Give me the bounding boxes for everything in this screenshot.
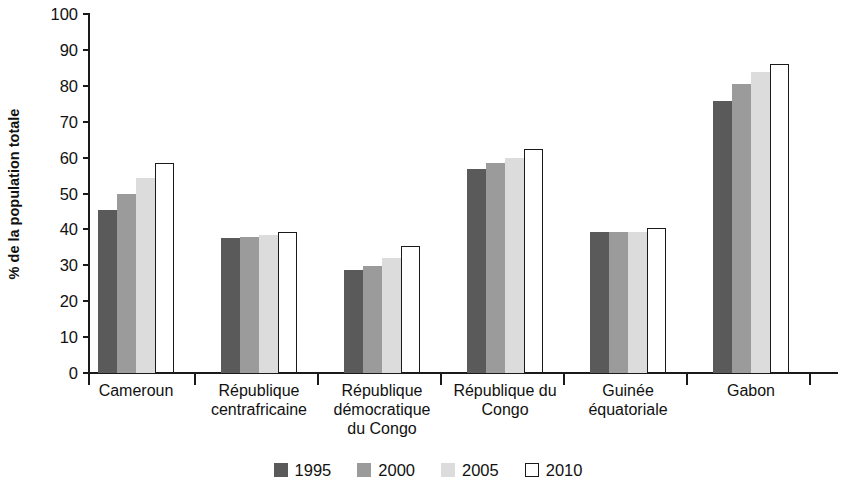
- y-axis-tick-label: 60: [60, 150, 78, 167]
- x-axis-group-separator: [809, 373, 811, 385]
- bar-group: [344, 14, 420, 373]
- legend-swatch-2010: [525, 463, 539, 477]
- legend-item-1995: 1995: [274, 462, 332, 479]
- bar-2010: [770, 64, 789, 373]
- bar-1995: [467, 169, 486, 373]
- bar-2010: [524, 149, 543, 373]
- x-axis-group-separator: [317, 373, 319, 385]
- bar-1995: [590, 232, 609, 373]
- legend-label: 2010: [546, 462, 583, 479]
- x-axis-category-label: République centrafricaine: [197, 381, 321, 419]
- bar-1995: [98, 210, 117, 373]
- x-axis-group-separator: [563, 373, 565, 385]
- bar-2010: [278, 232, 297, 373]
- bar-2000: [117, 194, 136, 373]
- x-axis-category-label: République du Congo: [443, 381, 567, 419]
- bar-2005: [751, 72, 770, 373]
- y-axis-tick-label: 40: [60, 221, 78, 238]
- legend-item-2000: 2000: [357, 462, 415, 479]
- y-axis-tick-label: 0: [69, 365, 78, 382]
- bar-group: [221, 14, 297, 373]
- x-axis-group-separator: [686, 373, 688, 385]
- x-axis-category-label: République démocratique du Congo: [320, 381, 444, 438]
- bar-2000: [486, 163, 505, 373]
- legend-swatch-2005: [441, 463, 455, 477]
- bar-2005: [505, 158, 524, 373]
- bar-2000: [609, 232, 628, 373]
- bar-1995: [221, 238, 240, 373]
- bar-group: [713, 14, 789, 373]
- bar-group: [467, 14, 543, 373]
- bar-2000: [732, 84, 751, 373]
- bar-2000: [240, 237, 259, 373]
- plot-area: [98, 14, 838, 373]
- bar-group: [98, 14, 174, 373]
- y-axis-tick-label: 100: [50, 6, 78, 23]
- y-axis-line: [88, 13, 90, 374]
- x-axis-category-label: Cameroun: [74, 381, 198, 400]
- legend-label: 2000: [378, 462, 415, 479]
- bar-2010: [401, 246, 420, 373]
- legend-label: 1995: [295, 462, 332, 479]
- bar-1995: [713, 101, 732, 373]
- y-axis-tick-label: 20: [60, 293, 78, 310]
- bar-2005: [628, 232, 647, 373]
- legend-item-2005: 2005: [441, 462, 499, 479]
- bar-group: [590, 14, 666, 373]
- y-axis-tick-label: 50: [60, 186, 78, 203]
- y-axis-tick-label: 70: [60, 114, 78, 131]
- legend-swatch-1995: [274, 463, 288, 477]
- bar-2000: [363, 266, 382, 373]
- y-axis-tick-label: 90: [60, 42, 78, 59]
- bar-2005: [136, 178, 155, 373]
- legend-swatch-2000: [357, 463, 371, 477]
- x-axis-group-separator: [440, 373, 442, 385]
- legend-label: 2005: [462, 462, 499, 479]
- bar-2010: [155, 163, 174, 373]
- x-axis-group-separator: [194, 373, 196, 385]
- bar-1995: [344, 270, 363, 373]
- legend-item-2010: 2010: [525, 462, 583, 479]
- legend: 1995200020052010: [0, 462, 856, 479]
- bar-2005: [259, 235, 278, 373]
- y-axis-ticks: 1009080706050403020100: [0, 0, 90, 388]
- y-axis-tick-label: 10: [60, 329, 78, 346]
- y-axis-tick-label: 30: [60, 257, 78, 274]
- bar-2010: [647, 228, 666, 373]
- bar-chart-figure: % de la population totale 10090807060504…: [0, 0, 856, 492]
- y-axis-tick-label: 80: [60, 78, 78, 95]
- bar-2005: [382, 258, 401, 373]
- x-axis-group-separator: [88, 373, 90, 385]
- x-axis-category-label: Guinée équatoriale: [566, 381, 690, 419]
- x-axis-category-label: Gabon: [689, 381, 813, 400]
